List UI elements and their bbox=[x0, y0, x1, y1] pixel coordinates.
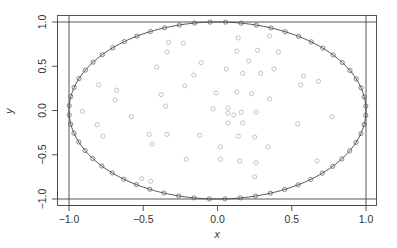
x-tick-label: 0.5 bbox=[284, 213, 299, 225]
y-tick-label: 0.5 bbox=[36, 59, 48, 74]
x-tick-label: 0.0 bbox=[210, 213, 225, 225]
x-tick-label: 1.0 bbox=[359, 213, 374, 225]
y-tick-label: 1.0 bbox=[36, 15, 48, 30]
y-tick-label: −0.5 bbox=[36, 144, 48, 165]
plot-background bbox=[0, 0, 397, 248]
chart: −1.0−0.50.00.51.0 −1.0−0.50.00.51.0 x y bbox=[0, 0, 397, 248]
y-tick-label: −1.0 bbox=[36, 188, 48, 209]
x-axis-label: x bbox=[213, 228, 220, 240]
x-tick-label: −1.0 bbox=[59, 213, 80, 225]
y-axis-label: y bbox=[3, 108, 15, 115]
y-tick-label: 0.0 bbox=[36, 103, 48, 118]
x-tick-label: −0.5 bbox=[133, 213, 154, 225]
